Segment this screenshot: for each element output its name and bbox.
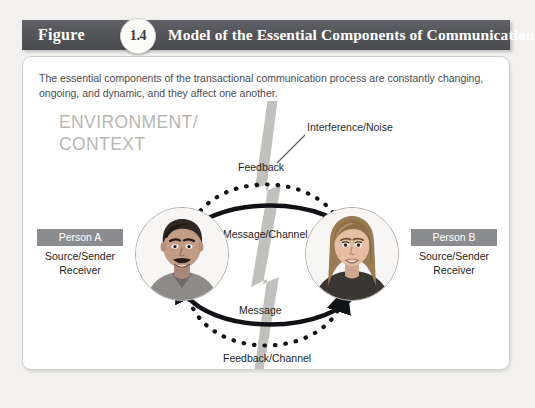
- person-a-badge: Person A: [37, 229, 123, 246]
- person-a-role-line2: Receiver: [37, 263, 123, 277]
- person-a-portrait: [135, 207, 229, 301]
- figure-panel: The essential components of the transact…: [22, 56, 510, 370]
- figure-number-text: 1.4: [121, 19, 155, 53]
- interference-noise-label: Interference/Noise: [307, 121, 393, 133]
- environment-label-line2: CONTEXT: [59, 133, 198, 155]
- person-b-portrait: [305, 207, 399, 301]
- noise-leader-line: [277, 135, 305, 163]
- message-label: Message: [239, 304, 282, 316]
- figure-header-bar: Figure 1.4 Model of the Essential Compon…: [22, 20, 510, 50]
- figure-title: Model of the Essential Components of Com…: [168, 26, 535, 44]
- feedback-label: Feedback: [238, 161, 284, 173]
- intro-paragraph: The essential components of the transact…: [39, 71, 487, 101]
- environment-label-line1: ENVIRONMENT/: [59, 111, 198, 133]
- person-a-role-line1: Source/Sender: [37, 249, 123, 263]
- communication-model-diagram: ENVIRONMENT/ CONTEXT Interference/Noise …: [23, 101, 509, 369]
- person-b-role-line1: Source/Sender: [411, 249, 497, 263]
- feedback-channel-label: Feedback/Channel: [223, 352, 311, 364]
- person-a-block: Person A Source/Sender Receiver: [37, 229, 123, 277]
- person-b-block: Person B Source/Sender Receiver: [411, 229, 497, 277]
- person-b-badge: Person B: [411, 229, 497, 246]
- environment-context-label: ENVIRONMENT/ CONTEXT: [59, 111, 198, 155]
- figure-word-label: Figure: [38, 26, 85, 44]
- message-channel-label: Message/Channel: [223, 228, 308, 240]
- person-b-role-line2: Receiver: [411, 263, 497, 277]
- figure-number-badge: 1.4: [120, 18, 156, 54]
